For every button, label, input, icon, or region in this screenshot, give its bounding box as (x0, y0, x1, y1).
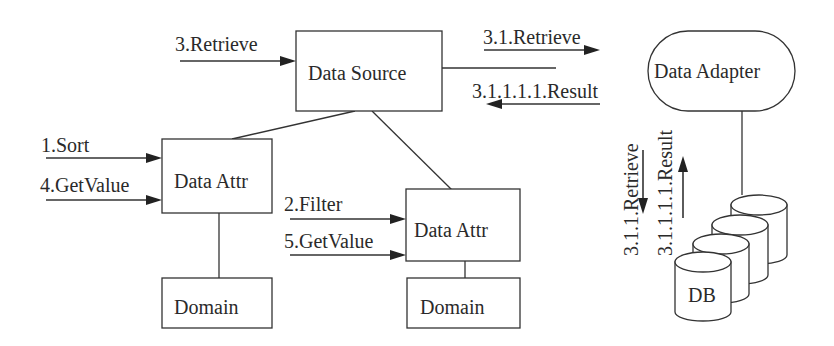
message-5-getvalue: 5.GetValue (284, 230, 406, 260)
message-result-vertical-label: 3.1.1.1.1.Result (654, 129, 676, 256)
message-3-1-retrieve: 3.1.Retrieve (483, 26, 600, 55)
arrow-up-icon (678, 156, 688, 172)
arrow-right-icon (390, 250, 406, 260)
arrow-right-icon (146, 153, 162, 163)
arrow-right-icon (390, 214, 406, 224)
message-1-sort: 1.Sort (41, 134, 162, 163)
message-3-1-1-1-1-result-horizontal: 3.1.1.1.1.Result (472, 80, 600, 109)
data-adapter-label: Data Adapter (654, 60, 760, 83)
message-3-1-retrieve-label: 3.1.Retrieve (483, 26, 581, 48)
message-4-getvalue: 4.GetValue (40, 174, 162, 205)
arrow-right-icon (146, 195, 162, 205)
data-attr-1-node[interactable]: Data Attr (162, 139, 272, 213)
domain-1-label: Domain (174, 296, 238, 318)
data-attr-2-label: Data Attr (414, 219, 488, 241)
arrow-right-icon (280, 56, 296, 66)
data-adapter-node[interactable]: Data Adapter (648, 31, 795, 111)
message-5-getvalue-label: 5.GetValue (284, 230, 374, 252)
data-attr-2-node[interactable]: Data Attr (406, 189, 520, 261)
arrow-right-icon (584, 45, 600, 55)
message-3-retrieve-label: 3.Retrieve (175, 33, 258, 55)
data-source-node[interactable]: Data Source (296, 31, 442, 111)
message-2-filter: 2.Filter (284, 193, 406, 224)
diagram-canvas: Data Source Data Adapter Data Attr Data … (0, 0, 834, 346)
db-label: DB (688, 284, 716, 306)
message-result-horizontal-label: 3.1.1.1.1.Result (472, 80, 599, 102)
data-source-label: Data Source (308, 62, 406, 84)
domain-1-node[interactable]: Domain (162, 278, 272, 328)
message-3-1-1-retrieve: 3.1.1.Retrieve (620, 143, 648, 256)
domain-2-label: Domain (420, 296, 484, 318)
message-1-sort-label: 1.Sort (41, 134, 90, 156)
message-4-getvalue-label: 4.GetValue (40, 174, 130, 196)
message-3-retrieve: 3.Retrieve (175, 33, 296, 66)
link-datasource-dataattr2 (372, 111, 452, 190)
data-attr-1-label: Data Attr (174, 170, 248, 192)
message-3-1-1-1-1-result-vertical: 3.1.1.1.1.Result (654, 129, 688, 256)
message-2-filter-label: 2.Filter (284, 193, 343, 215)
db-stack[interactable]: DB (675, 195, 787, 321)
link-datasource-dataattr1 (232, 111, 355, 139)
domain-2-node[interactable]: Domain (407, 278, 520, 328)
